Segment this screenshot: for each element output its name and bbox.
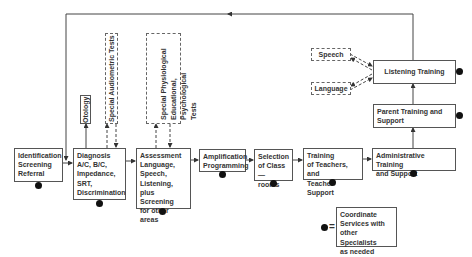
box-text: Impedance, [77,169,122,178]
box-text: Language [314,84,347,93]
assessment-box: Assessment Language, Speech, Listening, … [136,148,191,209]
identification-screening-referral-box: Identification Screening Referral [14,148,63,182]
box-text: Diagnosis [77,151,122,160]
administrative-training-box: Administrative Training and Support [372,148,456,171]
training-of-teachers-box: Training of Teachers, and Teacher Suppor… [303,148,363,180]
box-text: Otology [81,96,90,122]
box-text: Listening Training [384,67,444,76]
special-audiometric-tests-box: Special Audiometric Tests [105,33,118,124]
coordinate-services-dot [35,182,42,189]
legend-text: Services with [340,219,393,228]
speech-box: Speech [311,48,351,61]
box-text: Amplification [203,152,242,161]
box-text: Administrative Training [376,151,452,169]
box-text: Listening, [140,179,187,188]
box-text: of Teachers, and [307,160,359,178]
coordinate-services-dot [270,180,277,187]
box-text: Assessment [140,151,187,160]
box-text: Special Audiometric Tests [107,35,116,122]
parent-training-box: Parent Training and Support [373,104,456,128]
otology-box: Otology [80,95,91,124]
box-text: Parent Training and [377,107,452,116]
box-text: Speech, [140,169,187,178]
legend-box: Coordinate Services with other Specialis… [336,207,397,247]
coordinate-services-dot [410,170,417,177]
box-text: Programming [203,161,242,170]
legend-text: other Specialists [340,228,393,246]
box-text: Speech [319,50,344,59]
selection-of-classrooms-box: Selection of Class— rooms [254,149,293,181]
legend-equals-sign: = [329,222,335,232]
special-physiological-tests-box: Special Physiological Educational, Psych… [146,33,181,124]
box-text: Language, [140,160,187,169]
box-text: SRT, [77,179,122,188]
box-text: plus Screening [140,188,187,206]
coordinate-services-dot [329,179,336,186]
box-text: Identification [18,151,59,160]
box-text: Selection [258,152,289,161]
coordinate-services-dot [456,68,463,75]
box-text: Referral [18,169,59,178]
amplification-programming-box: Amplification Programming [199,149,246,172]
box-text: of Class— [258,161,289,179]
listening-training-box: Listening Training [373,60,456,84]
coordinate-services-dot [456,112,463,119]
connector-lines [0,0,472,257]
box-text: Training [307,151,359,160]
box-text: Support [377,116,452,125]
box-text: Screening [18,160,59,169]
language-box: Language [311,82,351,95]
coordinate-services-dot [159,208,166,215]
legend-dot [321,224,328,231]
diagnosis-box: Diagnosis A/C, B/C, Impedance, SRT, Disc… [73,148,126,200]
legend-text: Coordinate [340,210,393,219]
box-text: A/C, B/C, [77,160,122,169]
box-text: Discrimination [77,188,122,197]
legend-text: as needed [340,247,393,256]
coordinate-services-dot [96,200,103,207]
coordinate-services-dot [219,171,226,178]
